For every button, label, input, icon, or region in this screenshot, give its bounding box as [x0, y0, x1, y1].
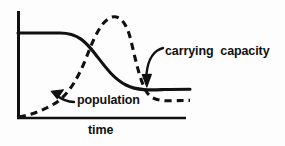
carrying-capacity-label: carrying capacity [165, 44, 270, 58]
population-carrying-capacity-figure: carrying capacity population time [0, 0, 285, 146]
carrying-capacity-curve [18, 33, 190, 90]
figure-canvas [0, 0, 285, 146]
carrying-capacity-arrow-shaft [147, 48, 164, 74]
carrying-capacity-arrow-head [142, 74, 151, 87]
population-arrow-head [51, 90, 63, 99]
population-label: population [77, 93, 140, 107]
x-axis-label: time [88, 123, 113, 137]
